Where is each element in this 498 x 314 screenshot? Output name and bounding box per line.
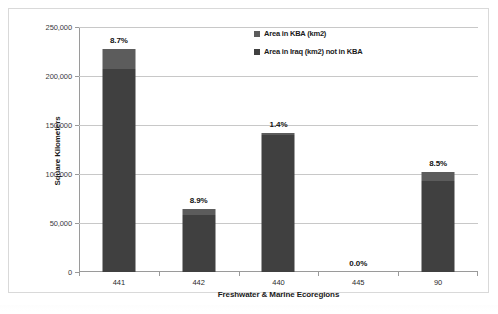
x-axis-tick-mark — [477, 272, 478, 276]
y-axis-tick-label: 200,000 — [46, 72, 72, 81]
bar-group[interactable]: 8.9%442 — [159, 27, 239, 272]
y-axis-tick-label: 100,000 — [46, 170, 72, 179]
bar-value-label: 8.5% — [429, 159, 447, 168]
bar-value-label: 1.4% — [270, 120, 288, 129]
bar-group[interactable]: 0.0%445 — [318, 27, 398, 272]
plot-area: 050,000100,000150,000200,000250,000 8.7%… — [79, 27, 478, 272]
y-axis-tick-label: 250,000 — [46, 23, 72, 32]
x-axis-tick-mark — [398, 272, 399, 276]
bar-value-label: 8.9% — [190, 196, 208, 205]
x-axis-title: Freshwater & Marine Ecoregions — [79, 290, 478, 299]
stacked-bar[interactable] — [102, 49, 135, 272]
chart-legend: Area in KBA (km2)Area in Iraq (km2) not … — [254, 29, 362, 56]
page-edge-artifact — [0, 305, 498, 311]
bar-segment-not-kba[interactable] — [422, 181, 455, 272]
bar-group[interactable]: 8.7%441 — [79, 27, 159, 272]
stacked-bar[interactable] — [262, 133, 295, 272]
bar-group[interactable]: 1.4%440 — [239, 27, 319, 272]
x-axis-category-label: 90 — [434, 278, 442, 287]
bar-segment-not-kba[interactable] — [102, 69, 135, 272]
y-axis-tick-label: 50,000 — [50, 219, 72, 228]
bar-value-label: 0.0% — [349, 259, 367, 268]
legend-swatch-icon — [254, 49, 260, 55]
x-axis-category-label: 440 — [272, 278, 285, 287]
x-axis-category-label: 441 — [113, 278, 126, 287]
stacked-bar[interactable] — [182, 209, 215, 272]
y-axis-tick-label: 150,000 — [46, 121, 72, 130]
x-axis-tick-mark — [159, 272, 160, 276]
legend-item-label: Area in KBA (km2) — [264, 29, 326, 38]
x-axis-category-label: 442 — [192, 278, 205, 287]
chart-container: Square Kilometers 050,000100,000150,0002… — [8, 8, 489, 293]
stacked-bar[interactable] — [422, 172, 455, 272]
x-axis-tick-mark — [318, 272, 319, 276]
x-axis-category-label: 445 — [352, 278, 365, 287]
bar-segment-not-kba[interactable] — [262, 135, 295, 272]
y-axis-tick-label: 0 — [68, 268, 72, 277]
bar-segment-kba[interactable] — [102, 49, 135, 70]
legend-item[interactable]: Area in KBA (km2) — [254, 29, 362, 38]
legend-item[interactable]: Area in Iraq (km2) not in KBA — [254, 47, 362, 56]
bar-segment-not-kba[interactable] — [182, 215, 215, 272]
bar-group[interactable]: 8.5%90 — [398, 27, 478, 272]
x-axis-tick-mark — [239, 272, 240, 276]
legend-item-label: Area in Iraq (km2) not in KBA — [264, 47, 362, 56]
legend-swatch-icon — [254, 31, 260, 37]
bar-segment-kba[interactable] — [422, 172, 455, 181]
bar-value-label: 8.7% — [110, 36, 128, 45]
x-axis-tick-mark — [79, 272, 80, 276]
